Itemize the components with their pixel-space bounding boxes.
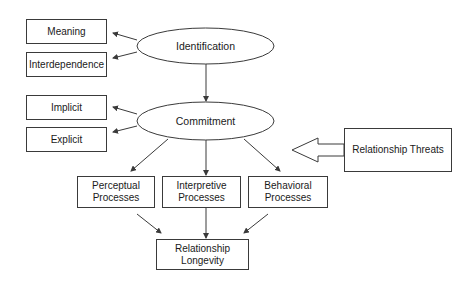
implicit-box: Implicit — [26, 95, 107, 120]
edge-commitment-to-perceptual — [131, 139, 168, 171]
edge-perceptual-to-longevity — [137, 214, 161, 233]
interdependence-box: Interdependence — [26, 52, 107, 77]
relationship-threats-box: Relationship Threats — [344, 128, 452, 172]
explicit-box: Explicit — [26, 127, 107, 152]
relationship-longevity-box: Relationship Longevity — [156, 239, 249, 270]
explicit-text: Explicit — [51, 134, 83, 146]
perceptual-processes-box: Perceptual Processes — [77, 176, 155, 208]
implicit-text: Implicit — [51, 102, 82, 114]
longevity-text: Relationship Longevity — [175, 243, 230, 267]
edge-identification-to-interdependence — [113, 52, 137, 58]
commitment-label: Commitment — [137, 102, 274, 140]
perceptual-text: Perceptual Processes — [92, 180, 140, 204]
meaning-box: Meaning — [26, 19, 107, 44]
edge-commitment-to-explicit — [113, 126, 137, 132]
interpretive-processes-box: Interpretive Processes — [162, 176, 241, 208]
commitment-text: Commitment — [176, 115, 236, 127]
identification-text: Identification — [176, 40, 235, 52]
threats-text: Relationship Threats — [352, 144, 444, 156]
behavioral-processes-box: Behavioral Processes — [248, 176, 328, 208]
behavioral-text: Behavioral Processes — [264, 180, 311, 204]
edge-behavioral-to-longevity — [244, 214, 268, 233]
interpretive-text: Interpretive Processes — [176, 180, 226, 204]
meaning-text: Meaning — [47, 26, 85, 38]
interdependence-text: Interdependence — [29, 59, 104, 71]
edge-commitment-to-behavioral — [244, 139, 280, 171]
identification-label: Identification — [137, 28, 274, 64]
edge-commitment-to-implicit — [113, 107, 137, 114]
threats-block-arrow — [292, 138, 344, 162]
edge-identification-to-meaning — [113, 33, 137, 40]
relationship-model-diagram: Identification Commitment Meaning Interd… — [0, 0, 476, 283]
